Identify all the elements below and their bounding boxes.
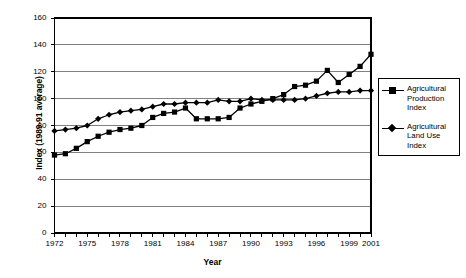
legend-label-production: Agricultural Production Index [407,84,446,113]
diamond-marker-icon [382,123,404,134]
square-marker-icon [382,85,404,96]
chart-legend: Agricultural Production Index Agricultur… [378,78,460,156]
legend-item-land-use: Agricultural Land Use Index [382,122,456,151]
legend-label-land-use: Agricultural Land Use Index [407,122,446,151]
legend-item-production: Agricultural Production Index [382,84,456,113]
chart-figure: Index (1989-91 average) Year 16014012010… [0,0,466,278]
